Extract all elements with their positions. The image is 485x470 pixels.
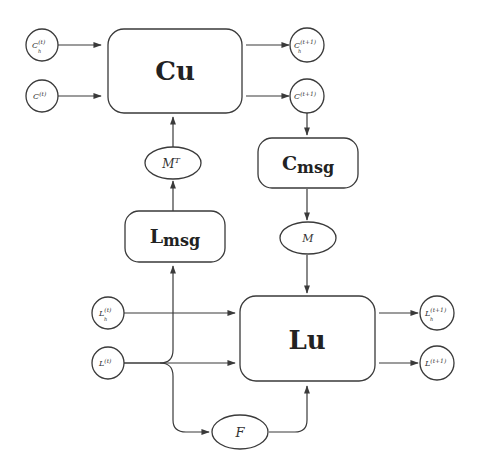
node-c-t: C(t)	[26, 80, 58, 112]
node-l-t1: L(t+1)	[420, 346, 454, 380]
svg-text:h: h	[104, 316, 107, 322]
message-passing-diagram: Cu Cmsg Lmsg Lu MT M F C(t) h	[0, 0, 485, 470]
block-lmsg: Lmsg	[125, 211, 225, 262]
node-l-h-t: L(t) h	[92, 297, 124, 329]
block-lmsg-sub: msg	[163, 231, 200, 250]
block-cmsg-label: C	[282, 152, 297, 174]
node-mt: MT	[145, 147, 201, 179]
block-cu-label: Cu	[155, 56, 195, 86]
node-c-h-t1: C(t+1) h	[290, 28, 324, 62]
node-m: M	[280, 222, 336, 254]
block-lmsg-label: L	[150, 225, 163, 247]
block-cmsg: Cmsg	[258, 138, 358, 188]
svg-text:h: h	[298, 48, 301, 54]
node-c-t1: C(t+1)	[290, 79, 324, 113]
block-cmsg-sub: msg	[297, 158, 334, 177]
node-f: F	[212, 415, 268, 449]
node-m-label: M	[301, 232, 314, 245]
block-cu: Cu	[108, 29, 242, 113]
edge-l-to-f	[160, 363, 209, 432]
block-lu-label: Lu	[288, 325, 325, 355]
svg-text:h: h	[38, 48, 41, 54]
node-l-h-t1: L(t+1) h	[420, 296, 454, 330]
node-l-t: L(t)	[92, 347, 124, 379]
edge-l-to-lmsg	[124, 266, 173, 363]
block-lu: Lu	[240, 296, 375, 381]
node-f-label: F	[234, 425, 245, 440]
svg-text:h: h	[430, 316, 433, 322]
edge-f-to-lu	[269, 386, 307, 432]
node-c-h-t: C(t) h	[26, 29, 58, 61]
